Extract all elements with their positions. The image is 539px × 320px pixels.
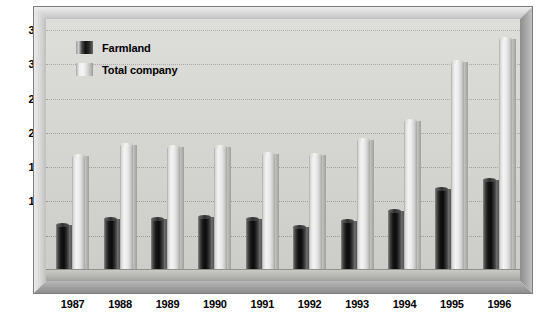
bar-body — [435, 189, 448, 270]
x-axis-tick-label: 1996 — [487, 298, 511, 310]
bar-body — [120, 145, 133, 270]
bar-side-face — [180, 147, 184, 270]
bar-group — [293, 30, 322, 270]
bar-side-face — [275, 154, 279, 270]
legend-item-total-company: Total company — [76, 61, 178, 78]
bar-top-cap — [451, 60, 464, 64]
bar-top-cap — [151, 217, 164, 221]
bar-top-cap — [214, 145, 227, 149]
legend: Farmland Total company — [76, 39, 178, 83]
bar-body — [214, 147, 227, 270]
bar-group — [435, 30, 464, 270]
bar-farmland-1994 — [388, 211, 401, 270]
legend-swatch-farmland — [76, 41, 93, 54]
bar-top-cap — [499, 37, 512, 41]
bar-body — [72, 156, 85, 270]
bar-farmland-1990 — [198, 217, 211, 270]
x-axis-tick-label: 1990 — [203, 298, 227, 310]
plot-floor — [46, 269, 520, 281]
bar-body — [293, 227, 306, 270]
bar-side-face — [133, 145, 137, 270]
bar-body — [309, 155, 322, 270]
bar-body — [246, 219, 259, 270]
legend-item-farmland: Farmland — [76, 39, 178, 56]
bar-body — [388, 211, 401, 270]
bar-body — [56, 225, 69, 270]
bar-body — [357, 140, 370, 270]
plot-area: Farmland Total company — [46, 19, 520, 281]
x-axis-tick-label: 1988 — [108, 298, 132, 310]
x-axis-tick-label: 1993 — [345, 298, 369, 310]
bar-farmland-1991 — [246, 219, 259, 270]
bar-side-face — [370, 140, 374, 270]
bar-group — [246, 30, 275, 270]
bar-top-cap — [404, 119, 417, 123]
x-axis-tick-label: 1989 — [156, 298, 180, 310]
bar-side-face — [85, 156, 89, 270]
bar-top-cap — [198, 215, 211, 219]
bar-group — [483, 30, 512, 270]
x-axis-tick-label: 1994 — [393, 298, 417, 310]
bar-body — [499, 39, 512, 270]
frame-bevel-bottom — [33, 281, 533, 294]
bar-total-company-1990 — [214, 147, 227, 270]
legend-label-total-company: Total company — [102, 64, 178, 76]
bar-body — [151, 219, 164, 270]
bar-body — [167, 147, 180, 270]
bar-chart: 05001,0001,5002,0002,5003,0003,500 Farml… — [0, 0, 539, 320]
x-axis: 1987198819891990199119921993199419951996 — [0, 298, 539, 320]
bar-body — [341, 221, 354, 270]
bar-body — [404, 121, 417, 270]
bar-top-cap — [309, 153, 322, 157]
bar-top-cap — [293, 225, 306, 229]
bar-farmland-1995 — [435, 189, 448, 270]
legend-label-farmland: Farmland — [102, 42, 151, 54]
bar-total-company-1989 — [167, 147, 180, 270]
bar-total-company-1988 — [120, 145, 133, 270]
bar-total-company-1995 — [451, 62, 464, 270]
bar-farmland-1996 — [483, 180, 496, 271]
bar-body — [262, 154, 275, 270]
bar-total-company-1996 — [499, 39, 512, 270]
bar-farmland-1993 — [341, 221, 354, 270]
bar-group — [341, 30, 370, 270]
frame-bevel-top — [33, 6, 533, 19]
x-axis-tick-label: 1991 — [250, 298, 274, 310]
frame-bevel-right — [520, 6, 533, 294]
bar-group — [198, 30, 227, 270]
bar-farmland-1987 — [56, 225, 69, 270]
bar-body — [483, 180, 496, 271]
bar-total-company-1992 — [309, 155, 322, 270]
bar-farmland-1992 — [293, 227, 306, 270]
bar-total-company-1991 — [262, 154, 275, 270]
chart-frame: Farmland Total company — [33, 6, 533, 294]
x-axis-tick-label: 1995 — [440, 298, 464, 310]
bar-top-cap — [388, 209, 401, 213]
bar-body — [451, 62, 464, 270]
bar-side-face — [227, 147, 231, 270]
bar-total-company-1994 — [404, 121, 417, 270]
bar-body — [198, 217, 211, 270]
bar-top-cap — [104, 217, 117, 221]
x-axis-tick-label: 1992 — [298, 298, 322, 310]
bar-side-face — [322, 155, 326, 270]
bar-body — [104, 219, 117, 270]
bar-group — [388, 30, 417, 270]
legend-swatch-total-company — [76, 63, 93, 76]
bar-farmland-1989 — [151, 219, 164, 270]
bar-top-cap — [483, 178, 496, 182]
frame-bevel-left — [33, 6, 46, 294]
bar-side-face — [417, 121, 421, 270]
bar-total-company-1987 — [72, 156, 85, 270]
bar-total-company-1993 — [357, 140, 370, 270]
x-axis-tick-label: 1987 — [61, 298, 85, 310]
bar-top-cap — [357, 138, 370, 142]
bar-side-face — [464, 62, 468, 270]
bar-side-face — [512, 39, 516, 270]
bar-farmland-1988 — [104, 219, 117, 270]
